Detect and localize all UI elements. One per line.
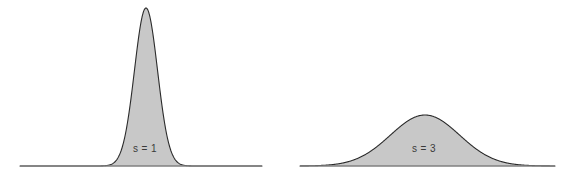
chart-panel-narrow: s = 1 <box>0 0 288 181</box>
chart-panel-wide: s = 3 <box>288 0 576 181</box>
wide-gaussian-area <box>300 115 555 166</box>
wide-gaussian-label: s = 3 <box>412 144 436 154</box>
gaussian-comparison-figure: s = 1 s = 3 <box>0 0 576 181</box>
narrow-gaussian-label: s = 1 <box>133 144 157 154</box>
